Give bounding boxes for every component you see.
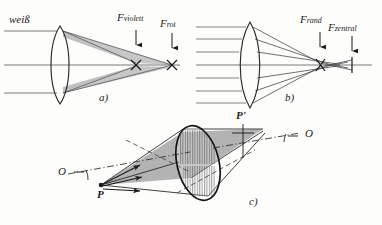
focus-rand-subscript: rand: [307, 16, 322, 25]
panel-c-caption: c): [249, 196, 258, 207]
focus-rand-symbol: F: [300, 13, 307, 25]
panel-c-image-point-label: P': [236, 110, 246, 121]
panel-a-group: [4, 26, 180, 104]
panel-c-axis-label-left: O: [58, 166, 66, 177]
focus-violet-symbol: F: [117, 11, 124, 23]
panel-c-axis-label-right: O: [305, 128, 313, 139]
panel-b-caption: b): [285, 92, 294, 103]
optics-aberration-figure: [0, 0, 382, 225]
panel-b-group: [196, 22, 372, 108]
panel-a-incoming-rays: [4, 31, 57, 93]
panel-a-focus-violet-label: Fviolett: [117, 12, 144, 23]
panel-a-focus-red-label: Frot: [160, 18, 176, 29]
panel-b-focus-rand-label: Frand: [300, 14, 322, 25]
panel-b-focus-zentral-label: Fzentral: [328, 22, 357, 33]
focus-zentral-subscript: zentral: [335, 24, 357, 33]
focus-zentral-symbol: F: [328, 21, 335, 33]
panel-a-shaded-cones: [63, 31, 172, 93]
panel-c-object-point-marker: [99, 183, 104, 188]
panel-a-caption: a): [99, 92, 108, 103]
focus-red-symbol: F: [160, 17, 167, 29]
focus-red-subscript: rot: [167, 20, 176, 29]
panel-a-incoming-label: weiß: [9, 14, 30, 25]
focus-violet-subscript: violett: [124, 14, 144, 23]
panel-c-aperture-hatching: [180, 130, 216, 196]
panel-c-object-point-label: P: [97, 189, 104, 200]
